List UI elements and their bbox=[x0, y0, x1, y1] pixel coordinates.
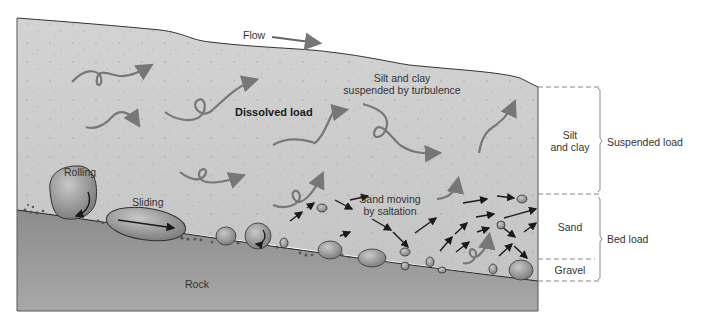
legend-layer-silt-clay: Silt and clay bbox=[548, 129, 592, 153]
legend-silt-line2: and clay bbox=[548, 141, 592, 153]
rock-label: Rock bbox=[185, 278, 209, 290]
sand-saltation-label: Sand moving by saltation bbox=[352, 193, 428, 217]
silt-clay-suspended-line2: suspended by turbulence bbox=[342, 84, 462, 96]
rolling-label: Rolling bbox=[64, 166, 96, 178]
silt-clay-suspended-label: Silt and clay suspended by turbulence bbox=[342, 72, 462, 96]
legend-silt-line1: Silt bbox=[548, 129, 592, 141]
dissolved-load-label: Dissolved load bbox=[235, 106, 313, 118]
diagram-canvas bbox=[0, 0, 701, 324]
suspended-load-bracket bbox=[598, 88, 602, 192]
flow-label: Flow bbox=[243, 29, 265, 41]
sliding-label: Sliding bbox=[132, 196, 164, 208]
flow-arrow-icon bbox=[272, 37, 318, 43]
sediment-transport-diagram: Flow Dissolved load Silt and clay suspen… bbox=[0, 0, 701, 324]
legend-layer-sand: Sand bbox=[548, 221, 592, 233]
silt-clay-suspended-line1: Silt and clay bbox=[342, 72, 462, 84]
legend-group-bed-load: Bed load bbox=[607, 233, 648, 245]
legend-brackets bbox=[598, 88, 602, 280]
sand-saltation-line2: by saltation bbox=[352, 205, 428, 217]
legend-group-suspended-load: Suspended load bbox=[607, 136, 683, 148]
legend-layer-gravel: Gravel bbox=[545, 264, 595, 276]
legend-dividers bbox=[538, 87, 600, 281]
sand-saltation-line1: Sand moving bbox=[352, 193, 428, 205]
bed-load-bracket bbox=[598, 197, 602, 280]
